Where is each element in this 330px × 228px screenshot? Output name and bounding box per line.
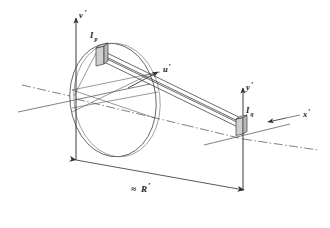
right-dashdot-axis-out [243, 139, 318, 150]
ray-bundle-group [100, 52, 247, 129]
aperture-diagonal-a [72, 90, 155, 118]
range-dimension-group: ≈ R ′ [76, 160, 244, 194]
left-origin-axes [18, 84, 185, 125]
receiver-element-face [236, 118, 243, 136]
range-dimension-arrow [76, 160, 244, 190]
axis-v-prime-prime: ′ [85, 8, 87, 18]
axis-x-prime-group: x ′ [268, 107, 310, 122]
aperture-chord-lines [72, 53, 160, 118]
aperture-ellipse-outer [63, 38, 162, 162]
right-dashdot-axis-in [185, 125, 243, 139]
receiver-element-subscript: q [251, 111, 254, 117]
ray-line-2 [100, 60, 242, 129]
axis-v-prime-group: v ′ [76, 8, 87, 160]
ray-line-4 [105, 58, 247, 127]
left-solid-axis [18, 84, 150, 112]
receiver-element-label: I [245, 105, 250, 115]
range-dimension-symbol: ≈ [131, 184, 136, 194]
source-element-face [96, 46, 104, 66]
receiver-element-group: I q [236, 105, 254, 136]
axis-u-prime-label: u [163, 64, 168, 74]
axis-v-prime-label: v [79, 10, 83, 20]
axis-x-prime-prime: ′ [308, 107, 310, 117]
source-element-label: I [89, 30, 94, 40]
left-dashdot-axis-in [22, 85, 70, 96]
aperture-diagonal-b [72, 74, 150, 112]
axis-x-prime-line [268, 118, 286, 122]
axis-y-prime-prime: ′ [251, 80, 253, 90]
axis-x-prime-extension [286, 115, 300, 118]
ray-line-1 [100, 54, 242, 123]
figure-canvas: v ′ u ′ I p y ′ x ′ [0, 0, 330, 228]
source-element-side [104, 43, 108, 64]
axis-u-prime-prime: ′ [169, 62, 171, 72]
range-dimension-quantity: R [140, 184, 147, 194]
receiver-element-side [243, 115, 247, 134]
left-dashdot-axis-out [76, 99, 185, 125]
axis-y-prime-label: y [245, 82, 250, 92]
right-origin-axes [185, 124, 318, 150]
optical-geometry-figure: v ′ u ′ I p y ′ x ′ [0, 0, 330, 228]
range-dimension-prime: ′ [148, 181, 151, 191]
source-element-subscript: p [94, 36, 98, 42]
